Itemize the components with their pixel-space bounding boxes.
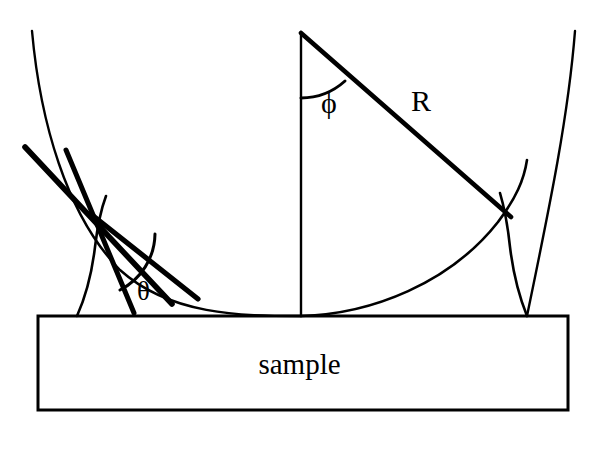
phi-angle-label: ϕ [321, 88, 337, 118]
theta-angle-label: θ [137, 278, 150, 305]
meniscus-diagram-svg [0, 0, 599, 449]
large-meniscus-curve [301, 160, 527, 316]
right-sphere-contour [527, 31, 575, 316]
sample-block-label: sample [0, 350, 599, 379]
diagram-canvas: θ ϕ R sample [0, 0, 599, 449]
radius-label: R [411, 86, 431, 116]
radius-line [301, 33, 511, 217]
